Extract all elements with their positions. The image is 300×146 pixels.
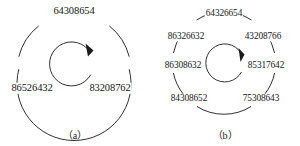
outer-ring-arc-a-3 [19,26,39,57]
ring-label-a-left: 86526432 [10,83,53,94]
outer-ring-arc-a-1 [109,26,129,57]
figure-root: 64308654 86526432 83208762 （a） 643266 [0,0,300,146]
ring-label-b-upper-left: 86326632 [167,32,205,41]
outer-ring-arc-b-4 [197,107,251,115]
inner-ring-arc-b [206,44,242,82]
ring-label-a-top: 64308654 [52,6,95,17]
clockwise-arrow-head-b [239,48,245,62]
outer-ring-arc-b-3 [265,73,275,94]
ring-label-a-right: 83208762 [88,83,131,94]
ring-label-b-lower-right: 75308643 [242,94,280,103]
diagram-b-graphics [150,0,300,146]
inner-ring-arc-a [50,42,91,86]
panel-caption-b: （b） [213,127,238,142]
ring-label-b-top: 64326654 [205,9,243,18]
ring-label-b-left: 86308632 [164,61,202,70]
outer-ring-arc-b-5 [173,73,183,94]
ring-label-b-lower-left: 84308652 [170,94,208,103]
diagram-panel-a: 64308654 86526432 83208762 （a） [0,0,150,146]
clockwise-arrow-head-a [86,44,94,57]
diagram-a-graphics [0,0,150,146]
ring-label-b-right: 85317642 [247,61,285,70]
panel-caption-a: （a） [63,127,87,142]
ring-label-b-upper-right: 43208766 [244,32,282,41]
diagram-panel-b: 64326654 86326632 43208766 86308632 8531… [150,0,300,146]
